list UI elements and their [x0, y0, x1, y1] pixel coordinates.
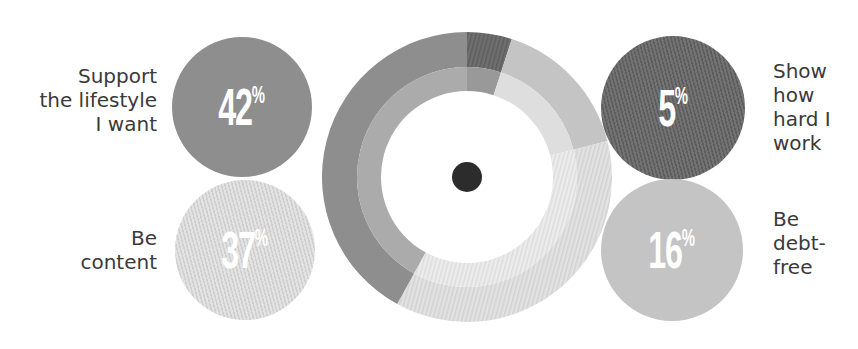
label-line: free [773, 255, 826, 279]
label-line: the lifestyle [39, 88, 157, 112]
label-line: debt- [773, 231, 826, 255]
label-line: content [80, 250, 157, 274]
bubble-show-hard-work: 5% [601, 36, 745, 180]
label-line: I want [39, 112, 157, 136]
bubble-value: 42% [219, 77, 266, 137]
center-dot [452, 162, 482, 192]
bubble-be-debt-free: 16% [601, 179, 743, 321]
label-be-debt-free: Be debt- free [773, 207, 826, 279]
label-line: Show [773, 59, 831, 83]
label-be-content: Be content [80, 226, 157, 274]
bubble-value: 16% [649, 220, 696, 280]
bubble-be-content: 37% [175, 180, 315, 320]
bubble-support-lifestyle: 42% [172, 37, 312, 177]
donut-segment-be-content [397, 141, 612, 322]
label-line: Be [773, 207, 826, 231]
bubble-value: 37% [222, 220, 269, 280]
label-line: hard I [773, 107, 831, 131]
label-show-hard-work: Show how hard I work [773, 59, 831, 155]
label-line: work [773, 131, 831, 155]
label-support-lifestyle: Support the lifestyle I want [39, 64, 157, 136]
bubble-value: 5% [658, 78, 688, 138]
donut-chart [0, 0, 858, 349]
label-line: Be [80, 226, 157, 250]
label-line: how [773, 83, 831, 107]
label-line: Support [39, 64, 157, 88]
